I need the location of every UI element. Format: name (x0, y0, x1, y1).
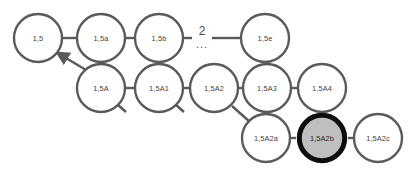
node-1-5a3[interactable]: 1,5A3 (243, 64, 291, 112)
node-label: 1,5A2a (254, 134, 279, 143)
node-label: 1,5A1 (149, 84, 169, 93)
node-1-5a2[interactable]: 1,5A2 (190, 64, 238, 112)
nodes-layer: 1,51,5a1,5b1,5e1,5A1,5A11,5A21,5A31,5A41… (14, 14, 402, 162)
node-1-5a[interactable]: 1,5a (77, 14, 125, 62)
node-1-5a1[interactable]: 1,5A1 (135, 64, 183, 112)
node-label: 1,5A2 (204, 84, 224, 93)
node-1-5a2c[interactable]: 1,5A2c (354, 114, 402, 162)
node-label: 1,5e (258, 34, 273, 43)
node-label: 1,5A2b (310, 134, 334, 143)
node-1-5b[interactable]: 1,5b (135, 14, 183, 62)
node-1-5a2b[interactable]: 1,5A2b (299, 115, 344, 160)
node-1-5a2a[interactable]: 1,5A2a (242, 114, 290, 162)
row-bottom: 1,5A2a1,5A2b1,5A2c (242, 114, 402, 162)
node-1-5a4[interactable]: 1,5A4 (298, 64, 346, 112)
node-1-5[interactable]: 1,5 (14, 14, 62, 62)
node-label: 1,5a (94, 34, 110, 43)
edge-1-5A--1-5-arrow (56, 52, 86, 70)
node-label: 1,5A3 (257, 84, 277, 93)
gap-number-label: 2 (199, 24, 206, 38)
row-top: 1,51,5a1,5b1,5e (14, 14, 289, 62)
node-label: 1,5 (33, 34, 44, 43)
edge-1-5A2--1-5A2a (232, 106, 250, 122)
graph-svg: 1,51,5a1,5b1,5e1,5A1,5A11,5A21,5A31,5A41… (0, 0, 408, 174)
node-1-5e[interactable]: 1,5e (241, 14, 289, 62)
diagram-canvas: 1,51,5a1,5b1,5e1,5A1,5A11,5A21,5A31,5A41… (0, 0, 408, 174)
gap-ellipsis-label: ... (196, 38, 208, 50)
node-label: 1,5A4 (312, 84, 332, 93)
node-label: 1,5A (93, 84, 109, 93)
node-label: 1,5A2c (366, 134, 390, 143)
node-label: 1,5b (152, 34, 167, 43)
gap-marker-layer: 2 ... (196, 24, 208, 50)
node-1-5a[interactable]: 1,5A (77, 64, 125, 112)
row-middle: 1,5A1,5A11,5A21,5A31,5A4 (77, 64, 346, 112)
